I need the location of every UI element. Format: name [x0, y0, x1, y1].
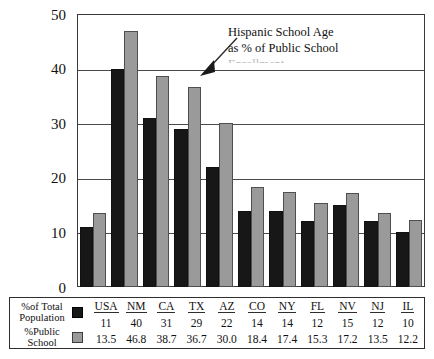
table-column-az: AZ2230.0	[212, 298, 242, 348]
table-cell-fl-total-population: 12	[302, 317, 332, 330]
y-tick-40: 40	[51, 62, 66, 77]
table-header-label: CA	[157, 300, 175, 313]
table-cell-usa-public-school: 13.5	[91, 333, 121, 346]
table-column-co: CO1418.4	[242, 298, 272, 348]
bar-il-total-population	[396, 232, 409, 287]
legend-label-public-school-line1: %Public	[24, 326, 60, 337]
table-column-nj: NJ1213.5	[363, 298, 393, 348]
bar-nj-total-population	[364, 221, 377, 287]
table-header-label: IL	[401, 300, 414, 313]
legend-item-public-school: %Public School	[14, 326, 90, 348]
bar-nv-public-school	[346, 193, 359, 287]
bar-group-nm	[109, 14, 141, 287]
bar-fl-public-school	[314, 203, 327, 287]
table-header-label: CO	[248, 300, 266, 313]
table-header-fl: FL	[302, 300, 332, 313]
table-header-label: AZ	[218, 300, 235, 313]
table-header-label: NY	[278, 300, 297, 313]
table-header-nm: NM	[121, 300, 151, 313]
bar-ny-public-school	[283, 192, 296, 287]
callout-line-3: Enrollment	[228, 56, 338, 63]
bar-usa-public-school	[93, 213, 106, 287]
table-cell-nv-public-school: 17.2	[332, 333, 362, 346]
table-header-label: TX	[188, 300, 205, 313]
table-header-az: AZ	[212, 300, 242, 313]
table-header-label: NM	[126, 300, 147, 313]
table-header-il: IL	[393, 300, 423, 313]
table-header-label: USA	[94, 300, 119, 313]
gray-swatch-icon	[72, 332, 83, 343]
table-header-co: CO	[242, 300, 272, 313]
bar-group-ca	[140, 14, 172, 287]
legend-label-total-population-line2: Population	[19, 312, 65, 323]
callout-line-1: Hispanic School Age	[228, 24, 338, 40]
table-cell-ny-total-population: 14	[272, 317, 302, 330]
table-header-usa: USA	[91, 300, 121, 313]
table-header-nv: NV	[332, 300, 362, 313]
bar-group-il	[393, 14, 425, 287]
bar-co-total-population	[238, 211, 251, 287]
table-cell-nj-total-population: 12	[363, 317, 393, 330]
table-cell-az-total-population: 22	[212, 317, 242, 330]
table-column-usa: USA1113.5	[91, 298, 121, 348]
table-header-tx: TX	[182, 300, 212, 313]
table-header-ny: NY	[272, 300, 302, 313]
bar-az-total-population	[206, 167, 219, 287]
table-cell-tx-total-population: 29	[182, 317, 212, 330]
table-cell-ca-total-population: 31	[151, 317, 181, 330]
table-column-tx: TX2936.7	[182, 298, 212, 348]
table-cell-usa-total-population: 11	[91, 317, 121, 330]
bar-nj-public-school	[378, 213, 391, 287]
table-cell-az-public-school: 30.0	[212, 333, 242, 346]
table-column-fl: FL1215.3	[302, 298, 332, 348]
table-column-nv: NV1517.2	[332, 298, 362, 348]
y-tick-20: 20	[51, 171, 66, 186]
table-column-nm: NM4046.8	[121, 298, 151, 348]
y-tick-10: 10	[51, 226, 66, 241]
y-tick-50: 50	[51, 8, 66, 23]
hispanic-population-bar-chart: 50 40 30 20 10 0 Hispanic School Age as …	[0, 0, 434, 359]
bar-fl-total-population	[301, 221, 314, 287]
table-header-label: NJ	[370, 300, 385, 313]
table-cell-nv-total-population: 15	[332, 317, 362, 330]
legend-label-public-school: %Public School	[14, 326, 70, 348]
table-cell-nj-public-school: 13.5	[363, 333, 393, 346]
table-header-label: NV	[338, 300, 357, 313]
legend-label-public-school-line2: School	[27, 337, 56, 348]
table-cell-fl-public-school: 15.3	[302, 333, 332, 346]
data-table: %of Total Population %Public School USA1…	[9, 297, 425, 349]
data-table-columns: USA1113.5NM4046.8CA3138.7TX2936.7AZ2230.…	[91, 298, 424, 348]
table-cell-nm-public-school: 46.8	[121, 333, 151, 346]
table-cell-ca-public-school: 38.7	[151, 333, 181, 346]
legend-label-total-population-line1: %of Total	[21, 301, 62, 312]
bar-az-public-school	[219, 123, 232, 287]
table-column-ca: CA3138.7	[151, 298, 181, 348]
y-tick-30: 30	[51, 117, 66, 132]
legend-item-total-population: %of Total Population	[14, 301, 90, 323]
bar-nm-public-school	[124, 31, 137, 287]
bar-il-public-school	[409, 220, 422, 287]
bar-nm-total-population	[111, 69, 124, 287]
bar-ny-total-population	[269, 211, 282, 287]
table-cell-tx-public-school: 36.7	[182, 333, 212, 346]
bar-ca-total-population	[143, 118, 156, 287]
bar-group-usa	[77, 14, 109, 287]
bar-usa-total-population	[80, 227, 93, 287]
table-cell-co-public-school: 18.4	[242, 333, 272, 346]
bar-tx-public-school	[188, 87, 201, 287]
bar-nv-total-population	[333, 205, 346, 287]
bar-group-nj	[362, 14, 394, 287]
black-swatch-icon	[72, 307, 83, 318]
y-tick-0: 0	[59, 281, 67, 296]
table-column-il: IL1012.2	[393, 298, 423, 348]
callout-text: Hispanic School Age as % of Public Schoo…	[228, 24, 338, 63]
table-header-label: FL	[310, 300, 325, 313]
table-cell-il-total-population: 10	[393, 317, 423, 330]
legend-label-total-population: %of Total Population	[14, 301, 70, 323]
legend: %of Total Population %Public School	[10, 298, 90, 348]
table-cell-ny-public-school: 17.4	[272, 333, 302, 346]
table-cell-nm-total-population: 40	[121, 317, 151, 330]
callout-line-2: as % of Public School	[228, 40, 338, 56]
table-column-ny: NY1417.4	[272, 298, 302, 348]
bar-tx-total-population	[174, 129, 187, 287]
